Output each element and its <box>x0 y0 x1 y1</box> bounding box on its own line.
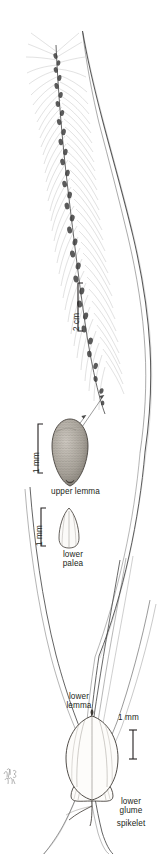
label-lower-glume-line1: lower <box>106 797 156 806</box>
scale-label-1mm-spikelet: 1 mm <box>118 713 139 722</box>
label-spikelet: spikelet <box>104 819 158 828</box>
label-lower-glume-line2: glume <box>106 806 156 815</box>
label-lower-lemma-line2: lemma <box>56 701 102 710</box>
scale-label-1mm-lower-palea: 1 mm <box>35 525 44 546</box>
scale-bar-1mm-spikelet-bar <box>129 730 137 759</box>
scale-label-2cm: 2 cm <box>72 313 81 331</box>
inflorescence <box>26 33 124 414</box>
upper-lemma-detail <box>52 419 88 486</box>
label-lower-palea-line1: lower <box>50 550 96 559</box>
label-upper-lemma: upper lemma <box>33 487 118 496</box>
lower-palea-detail <box>59 508 79 548</box>
illustration-artwork <box>0 0 167 854</box>
label-lower-lemma-line1: lower <box>56 692 102 701</box>
label-lower-palea-line2: palea <box>50 559 96 568</box>
scale-label-1mm-upper-lemma: 1 mm <box>32 452 41 473</box>
botanical-plate: 2 cm 1 mm 1 mm 1 mm upper lemma lower pa… <box>0 0 167 854</box>
artist-signature <box>4 769 16 784</box>
